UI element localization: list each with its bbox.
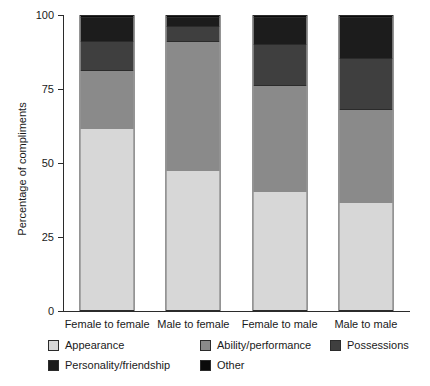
y-tick-label: 100 — [36, 10, 54, 21]
legend-swatch — [200, 340, 211, 351]
y-axis-ticks: 0255075100 — [0, 0, 63, 386]
bar-segment[interactable] — [167, 26, 220, 41]
bar-segment[interactable] — [81, 17, 134, 41]
bar-segment[interactable] — [339, 17, 392, 58]
x-axis-label: Female to female — [64, 314, 150, 334]
x-axis-label: Male to male — [323, 314, 409, 334]
legend-label: Personality/friendship — [65, 359, 170, 371]
bar-slot — [237, 15, 323, 311]
y-tick-label: 0 — [48, 306, 54, 317]
bar-segment[interactable] — [81, 41, 134, 71]
bar-segment[interactable] — [253, 17, 306, 44]
stacked-bar-chart-figure: Percentage of compliments 0255075100 Fem… — [0, 0, 430, 386]
bar-slot — [150, 15, 236, 311]
bar-segment[interactable] — [339, 109, 392, 204]
bar-segment[interactable] — [167, 41, 220, 171]
legend-swatch — [48, 340, 59, 351]
bar-slot — [323, 15, 409, 311]
y-tick-label: 25 — [42, 232, 54, 243]
bar-segment[interactable] — [339, 15, 392, 17]
bar-segment[interactable] — [253, 15, 306, 17]
bar-group — [64, 15, 409, 311]
y-tick-label: 75 — [42, 84, 54, 95]
bar-segment[interactable] — [253, 85, 306, 192]
legend-item[interactable]: Personality/friendship — [48, 359, 170, 371]
bar-segment[interactable] — [253, 44, 306, 85]
bar-segment[interactable] — [167, 17, 220, 26]
x-axis-label: Female to male — [237, 314, 323, 334]
bar-segment[interactable] — [253, 192, 306, 310]
stacked-bar[interactable] — [338, 15, 393, 311]
legend-item[interactable]: Appearance — [48, 339, 124, 351]
stacked-bar[interactable] — [80, 15, 135, 311]
legend-item[interactable]: Possessions — [330, 339, 409, 351]
x-axis-label: Male to female — [150, 314, 236, 334]
legend-swatch — [330, 340, 341, 351]
bar-segment[interactable] — [81, 70, 134, 129]
legend-swatch — [48, 360, 59, 371]
chart-legend: AppearanceAbility/performancePossessions… — [0, 336, 430, 380]
bar-slot — [64, 15, 150, 311]
x-axis-line — [63, 311, 410, 312]
legend-item[interactable]: Ability/performance — [200, 339, 311, 351]
legend-label: Possessions — [347, 339, 409, 351]
bar-segment[interactable] — [167, 15, 220, 17]
legend-item[interactable]: Other — [200, 359, 245, 371]
bar-segment[interactable] — [339, 203, 392, 310]
bar-segment[interactable] — [81, 129, 134, 310]
plot-area — [64, 15, 409, 311]
y-tick-label: 50 — [42, 158, 54, 169]
legend-swatch — [200, 360, 211, 371]
stacked-bar[interactable] — [252, 15, 307, 311]
bar-segment[interactable] — [339, 58, 392, 108]
legend-label: Other — [217, 359, 245, 371]
legend-label: Appearance — [65, 339, 124, 351]
stacked-bar[interactable] — [166, 15, 221, 311]
bar-segment[interactable] — [81, 15, 134, 17]
legend-label: Ability/performance — [217, 339, 311, 351]
x-axis-labels: Female to femaleMale to femaleFemale to … — [64, 314, 409, 334]
bar-segment[interactable] — [167, 171, 220, 310]
